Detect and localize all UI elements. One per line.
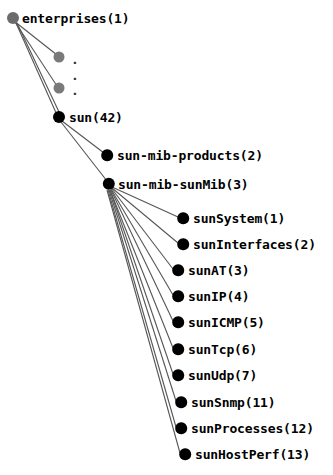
node-label-sun: sun(42)	[69, 111, 123, 124]
edge-sunmib-sunInterfaces	[112, 188, 178, 243]
node-suntcp[interactable]	[172, 343, 184, 355]
node-label-suninterfaces: sunInterfaces(2)	[193, 238, 316, 251]
node-sunsystem[interactable]	[177, 212, 189, 224]
edge-sunmib-sunIP	[111, 189, 173, 295]
node-sunicmp[interactable]	[172, 316, 184, 328]
node-label-sunsnmp: sunSnmp(11)	[191, 396, 275, 409]
node-enterprises[interactable]	[7, 12, 19, 24]
node-sunprocesses[interactable]	[175, 422, 187, 434]
node-suninterfaces[interactable]	[177, 238, 189, 250]
node-label-sunat: sunAT(3)	[188, 264, 249, 277]
node-label-sunudp: sunUdp(7)	[188, 369, 257, 382]
node-label-sunip: sunIP(4)	[188, 290, 249, 303]
node-label-sunsystem: sunSystem(1)	[193, 212, 285, 225]
edge-enterprises-dot1	[14, 21, 57, 55]
node-sun[interactable]	[53, 111, 65, 123]
edge-sunmib-sunSnmp	[109, 190, 176, 401]
node-sunsnmp[interactable]	[175, 396, 187, 408]
node-label-suntcp: sunTcp(6)	[188, 343, 257, 356]
node-label-placeholder-2: .	[71, 84, 79, 97]
edge-sun-products	[62, 121, 104, 153]
edge-sunmib-sunICMP	[111, 190, 173, 321]
edge-sunmib-sunProcesses	[108, 190, 176, 427]
node-sunhostperf[interactable]	[179, 448, 191, 460]
edge-enterprises-sun-b	[17, 23, 59, 112]
edge-sunmib-sunTcp	[110, 190, 173, 348]
mib-tree-diagram: enterprises(1) . . . sun(42) sun-mib-pro…	[0, 0, 333, 475]
node-label-sun-mib-sunmib: sun-mib-sunMib(3)	[118, 178, 249, 191]
node-label-placeholder-mid: .	[71, 69, 79, 82]
node-label-placeholder-1: .	[71, 53, 79, 66]
node-sunudp[interactable]	[172, 369, 184, 381]
edge-enterprises-sun-a	[16, 23, 57, 115]
node-placeholder-2[interactable]	[54, 83, 65, 94]
node-sunat[interactable]	[172, 264, 184, 276]
node-placeholder-1[interactable]	[54, 52, 65, 63]
node-label-sunicmp: sunICMP(5)	[188, 316, 265, 329]
edge-sun-sunmib	[61, 122, 107, 181]
node-label-sunprocesses: sunProcesses(12)	[191, 422, 314, 435]
edge-sunmib-sunUdp	[110, 190, 173, 374]
node-sun-mib-products[interactable]	[101, 149, 113, 161]
node-label-sun-mib-products: sun-mib-products(2)	[117, 149, 263, 162]
node-label-sunhostperf: sunHostPerf(13)	[195, 448, 310, 461]
node-label-enterprises: enterprises(1)	[22, 12, 129, 25]
node-sunip[interactable]	[172, 290, 184, 302]
